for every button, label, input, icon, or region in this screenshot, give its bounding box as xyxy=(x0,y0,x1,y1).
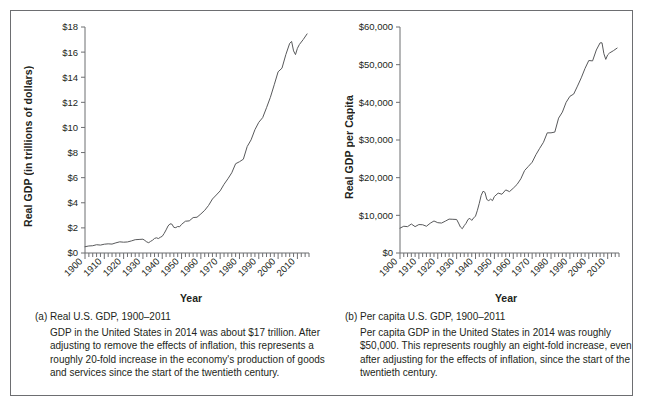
caption-b: (b) Per capita U.S. GDP, 1900–2011 Per c… xyxy=(345,310,645,380)
x-tick-label: 1960 xyxy=(178,256,201,279)
x-tick-label: 1930 xyxy=(120,256,143,279)
x-tick-label: 2010 xyxy=(274,256,297,279)
x-tick-label: 1910 xyxy=(396,256,419,279)
y-tick-label: $4 xyxy=(67,197,78,208)
y-tick-label: $60,000 xyxy=(359,21,393,32)
y-tick-label: $50,000 xyxy=(359,59,393,70)
x-tick-label: 2000 xyxy=(255,256,278,279)
line-chart-real-gdp: $0$2$4$6$8$10$12$14$16$18190019101920193… xyxy=(11,13,321,305)
plot-area-real-gdp: $0$2$4$6$8$10$12$14$16$18190019101920193… xyxy=(11,13,321,305)
y-tick-label: $6 xyxy=(67,172,78,183)
x-axis-title: Year xyxy=(71,292,311,304)
x-tick-label: 1900 xyxy=(377,256,400,279)
y-tick-label: $14 xyxy=(62,72,78,83)
figure-container: Real GDP (in trillions of dollars) $0$2$… xyxy=(10,10,633,396)
x-axis-title: Year xyxy=(386,292,626,304)
x-tick-label: 1940 xyxy=(139,256,162,279)
y-tick-label: $18 xyxy=(62,21,78,32)
panel-real-gdp: Real GDP (in trillions of dollars) $0$2$… xyxy=(11,11,321,395)
x-tick-label: 1950 xyxy=(158,256,181,279)
y-tick-label: $20,000 xyxy=(359,172,393,183)
caption-title-a: (a) Real U.S. GDP, 1900–2011 xyxy=(35,310,335,324)
y-tick-label: $10 xyxy=(62,122,78,133)
y-tick-label: $10,000 xyxy=(359,210,393,221)
x-tick-label: 1990 xyxy=(547,256,570,279)
caption-body-a: GDP in the United States in 2014 was abo… xyxy=(35,326,335,380)
x-tick-label: 1930 xyxy=(433,256,456,279)
x-tick-label: 1970 xyxy=(509,256,532,279)
y-tick-label: $8 xyxy=(67,147,78,158)
y-tick-label: $12 xyxy=(62,97,78,108)
x-tick-label: 1920 xyxy=(100,256,123,279)
x-tick-label: 1980 xyxy=(528,256,551,279)
panel-real-gdp-per-capita: Real GDP per Capita $0$10,000$20,000$30,… xyxy=(321,11,631,395)
x-tick-label: 1980 xyxy=(216,256,239,279)
y-tick-label: $40,000 xyxy=(359,97,393,108)
line-chart-per-capita: $0$10,000$20,000$30,000$40,000$50,000$60… xyxy=(321,13,631,305)
caption-title-b: (b) Per capita U.S. GDP, 1900–2011 xyxy=(345,310,645,324)
x-tick-label: 1990 xyxy=(235,256,258,279)
x-tick-label: 1950 xyxy=(471,256,494,279)
y-tick-label: $2 xyxy=(67,222,78,233)
x-tick-label: 1970 xyxy=(197,256,220,279)
x-tick-label: 1920 xyxy=(414,256,437,279)
panel-row: Real GDP (in trillions of dollars) $0$2$… xyxy=(11,11,632,395)
x-tick-label: 1940 xyxy=(452,256,475,279)
x-tick-label: 1910 xyxy=(81,256,104,279)
caption-body-b: Per capita GDP in the United States in 2… xyxy=(345,326,645,380)
x-tick-label: 1900 xyxy=(62,256,85,279)
x-tick-label: 2000 xyxy=(565,256,588,279)
plot-area-per-capita: $0$10,000$20,000$30,000$40,000$50,000$60… xyxy=(321,13,631,305)
x-tick-label: 2010 xyxy=(584,256,607,279)
y-tick-label: $16 xyxy=(62,47,78,58)
y-tick-label: $30,000 xyxy=(359,134,393,145)
x-tick-label: 1960 xyxy=(490,256,513,279)
caption-a: (a) Real U.S. GDP, 1900–2011 GDP in the … xyxy=(35,310,335,380)
data-line-real-u-s-gdp-per-capita xyxy=(400,43,617,229)
data-line-real-u-s-gdp xyxy=(85,34,307,247)
